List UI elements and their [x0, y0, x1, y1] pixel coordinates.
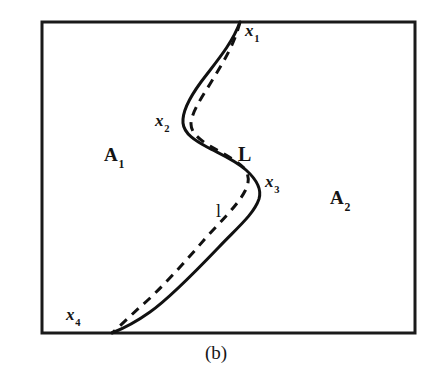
region-label-a1: A1 [104, 145, 124, 169]
curve-label-L: L [238, 144, 251, 164]
figure-border-frame [42, 22, 415, 333]
figure-caption: (b) [0, 342, 432, 364]
point-label-x3: x3 [265, 173, 279, 194]
curve-label-l: l [216, 202, 221, 220]
point-label-x1: x1 [245, 22, 259, 43]
point-label-x2: x2 [155, 112, 169, 133]
point-label-x4: x4 [66, 306, 80, 327]
figure-container: x1 x2 x3 x4 L l A1 A2 (b) [0, 0, 432, 376]
figure-canvas [0, 0, 432, 376]
region-label-a2: A2 [330, 188, 350, 212]
